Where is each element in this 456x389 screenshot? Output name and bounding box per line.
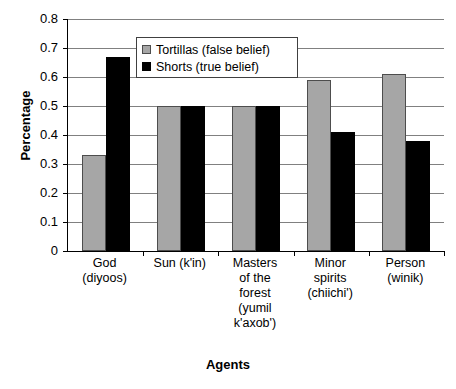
gray-square-swatch	[142, 45, 151, 54]
y-axis-tick-mark	[63, 48, 68, 49]
y-axis-tick-mark	[63, 77, 68, 78]
x-axis-category-label-line: of the	[217, 271, 292, 286]
legend-item-label: Shorts (true belief)	[156, 60, 259, 74]
x-axis-category-label: God(diyoos)	[67, 256, 142, 286]
y-axis-tick-label: 0.3	[18, 157, 58, 170]
x-axis-category-label-line: God	[67, 256, 142, 271]
bar	[307, 80, 331, 251]
y-axis-tick-label: 0.2	[18, 186, 58, 199]
x-axis-category-label-line: Minor	[293, 256, 368, 271]
y-axis-tick-label: 0.7	[18, 41, 58, 54]
y-axis-tick-mark	[63, 251, 68, 252]
legend-item-label: Tortillas (false belief)	[156, 43, 270, 57]
y-axis-tick-label: 0.8	[18, 12, 58, 25]
chart-legend: Tortillas (false belief)Shorts (true bel…	[136, 37, 298, 78]
y-axis-tick-label: 0.1	[18, 215, 58, 228]
y-axis-tick-mark	[63, 106, 68, 107]
x-axis-category-label: Person(winik)	[368, 256, 443, 286]
y-axis-tick-labels: 00.10.20.30.40.50.60.70.8	[18, 19, 58, 251]
y-axis-tick-mark	[63, 193, 68, 194]
y-axis-tick-label: 0.6	[18, 70, 58, 83]
x-axis-category-label-line: spirits	[293, 271, 368, 286]
bar	[406, 141, 430, 251]
x-axis-tick-mark	[444, 251, 445, 256]
y-axis-tick-mark	[63, 164, 68, 165]
bar-chart: Percentage 00.10.20.30.40.50.60.70.8 Tor…	[0, 0, 456, 389]
x-axis-category-label-line: Masters	[217, 256, 292, 271]
bar	[106, 57, 130, 251]
black-square-swatch	[142, 62, 151, 71]
x-axis-category-label-line: Sun (k'in)	[142, 256, 217, 271]
x-axis-category-label-line: (diyoos)	[67, 271, 142, 286]
gridline	[68, 19, 444, 20]
x-axis-category-label: Minorspirits(chiichi')	[293, 256, 368, 301]
y-axis-tick-mark	[63, 19, 68, 20]
legend-item[interactable]: Tortillas (false belief)	[142, 41, 292, 58]
x-axis-tick-labels: God(diyoos)Sun (k'in)Mastersof theforest…	[67, 256, 443, 346]
y-axis-tick-label: 0.5	[18, 99, 58, 112]
y-axis-tick-mark	[63, 135, 68, 136]
x-axis-category-label-line: k'axob')	[217, 316, 292, 331]
x-axis-category-label-line: (winik)	[368, 271, 443, 286]
x-axis-title: Agents	[0, 357, 456, 372]
x-axis-category-label-line: forest	[217, 286, 292, 301]
x-axis-category-label: Sun (k'in)	[142, 256, 217, 271]
bar	[82, 155, 106, 251]
x-axis-category-label-line: (yumil	[217, 301, 292, 316]
bar	[331, 132, 355, 251]
legend-item[interactable]: Shorts (true belief)	[142, 58, 292, 75]
y-axis-tick-mark	[63, 222, 68, 223]
x-axis-category-label-line: (chiichi')	[293, 286, 368, 301]
y-axis-tick-label: 0	[18, 244, 58, 257]
bar	[232, 106, 256, 251]
bar	[181, 106, 205, 251]
x-axis-category-label-line: Person	[368, 256, 443, 271]
bar	[256, 106, 280, 251]
y-axis-tick-label: 0.4	[18, 128, 58, 141]
bar	[157, 106, 181, 251]
x-axis-category-label: Mastersof theforest(yumilk'axob')	[217, 256, 292, 331]
bar	[382, 74, 406, 251]
